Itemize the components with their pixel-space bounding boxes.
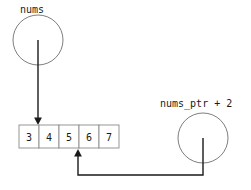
diagram-canvas: nums 3 4 5 6 7	[0, 0, 251, 190]
array-cell-value-0: 3	[26, 132, 32, 143]
array-cell: 5	[59, 125, 79, 148]
array-cell-value-3: 6	[86, 132, 92, 143]
array-nums: 3 4 5 6 7	[19, 125, 119, 148]
arrowhead-down-icon	[34, 118, 42, 126]
array-cell: 7	[99, 125, 119, 148]
array-cell-value-2: 5	[66, 132, 72, 143]
array-cell-value-1: 4	[46, 132, 52, 143]
arrowhead-up-icon	[74, 149, 82, 157]
pointer-label-nums-ptr-plus-2: nums_ptr + 2	[160, 98, 232, 110]
pointer-label-nums: nums	[20, 4, 44, 15]
array-cell: 3	[19, 125, 39, 148]
pointer-array-diagram: nums 3 4 5 6 7	[0, 0, 251, 190]
array-cell: 4	[39, 125, 59, 148]
array-cell: 6	[79, 125, 99, 148]
array-cell-value-4: 7	[106, 132, 112, 143]
